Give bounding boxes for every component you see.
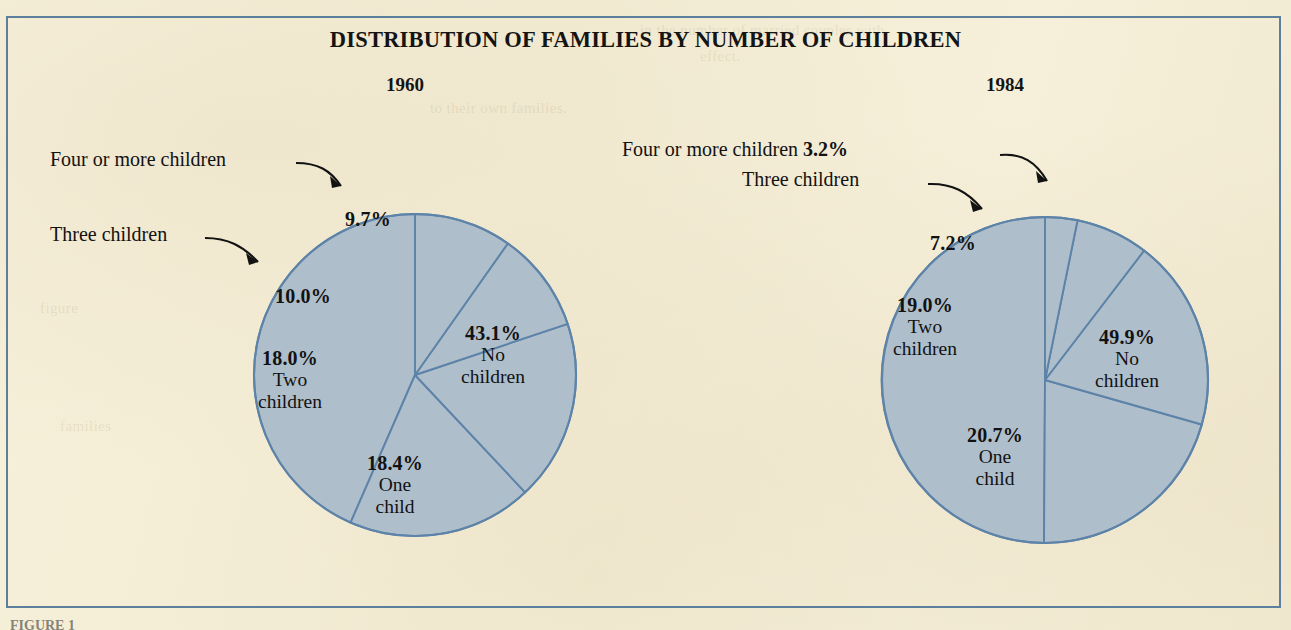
slice-pct-1960-three-children: 10.0%: [275, 285, 331, 307]
slice-cat-1984-no-children-l1: No: [1115, 348, 1139, 369]
figure-page: in the number of married couples with ef…: [0, 0, 1291, 630]
slice-cat-1960-one-child-l2: child: [376, 496, 415, 517]
slice-cat-1984-two-children-l1: Two: [908, 316, 942, 337]
slice-label-1984-two-children: 19.0% Two children: [860, 294, 990, 360]
slice-label-1960-one-child: 18.4% One child: [330, 452, 460, 518]
slice-pct-1984-two-children: 19.0%: [897, 294, 953, 316]
slice-pct-1960-four-or-more: 9.7%: [345, 208, 391, 230]
callout-1960-four-or-more-text: Four or more children: [50, 148, 226, 170]
callout-1984-three-children: Three children: [742, 168, 859, 191]
slice-cat-1984-one-child-l1: One: [979, 446, 1012, 467]
slice-cat-1984-two-children-l2: children: [893, 338, 957, 359]
slice-pct-1984-one-child: 20.7%: [967, 424, 1023, 446]
slice-cat-1984-one-child-l2: child: [976, 468, 1015, 489]
callout-1984-four-or-more-pct: 3.2%: [803, 138, 848, 160]
callout-1960-four-or-more: Four or more children: [50, 148, 226, 171]
slice-cat-1960-two-children-l1: Two: [273, 369, 307, 390]
slice-cat-1984-no-children-l2: children: [1095, 370, 1159, 391]
slice-pct-1960-two-children: 18.0%: [262, 347, 318, 369]
slice-pct-1984-three-children: 7.2%: [930, 232, 976, 254]
slice-pct-1960-no-children: 43.1%: [465, 322, 521, 344]
slice-label-1960-four-or-more: 9.7%: [313, 208, 423, 230]
slice-label-1960-no-children: 43.1% No children: [428, 322, 558, 388]
slice-label-1984-no-children: 49.9% No children: [1062, 326, 1192, 392]
slice-cat-1960-two-children-l2: children: [258, 391, 322, 412]
slice-label-1960-two-children: 18.0% Two children: [225, 347, 355, 413]
slice-pct-1984-no-children: 49.9%: [1099, 326, 1155, 348]
pie-charts-canvas: [0, 0, 1291, 630]
callout-1960-three-children: Three children: [50, 223, 167, 246]
pie-slice-no-children: [881, 217, 1045, 543]
figure-caption: FIGURE 1: [10, 618, 75, 630]
slice-cat-1960-no-children-l2: children: [461, 366, 525, 387]
slice-cat-1960-one-child-l1: One: [379, 474, 412, 495]
slice-label-1984-three-children: 7.2%: [898, 232, 1008, 254]
slice-label-1984-one-child: 20.7% One child: [930, 424, 1060, 490]
slice-label-1960-three-children: 10.0%: [243, 285, 363, 307]
slice-pct-1960-one-child: 18.4%: [367, 452, 423, 474]
callout-1984-three-children-text: Three children: [742, 168, 859, 190]
callout-1984-four-or-more: Four or more children 3.2%: [622, 138, 848, 161]
callout-1960-three-children-text: Three children: [50, 223, 167, 245]
slice-cat-1960-no-children-l1: No: [481, 344, 505, 365]
callout-1984-four-or-more-text: Four or more children: [622, 138, 798, 160]
